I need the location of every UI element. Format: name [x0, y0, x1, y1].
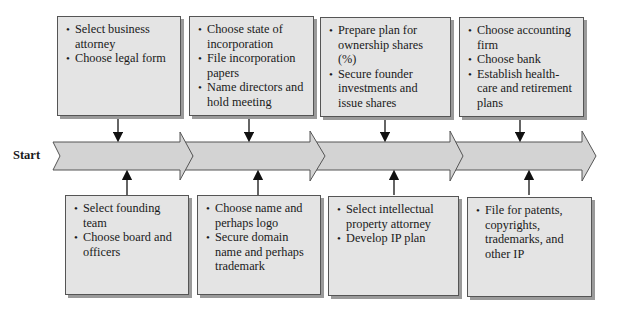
task-item: Secure founder investments and issue sha…	[329, 67, 444, 111]
stage-3-top-box: Prepare plan for ownership shares (%) Se…	[320, 17, 451, 117]
task-item: Select founding team	[74, 201, 182, 230]
stage-2-top-box: Choose state of incorporation File incor…	[189, 16, 314, 116]
task-item: Prepare plan for ownership shares (%)	[329, 23, 444, 67]
stage-1-bottom-box: Select founding team Choose board and of…	[65, 195, 189, 295]
task-item: Develop IP plan	[337, 231, 452, 246]
task-item: File incorporation papers	[198, 51, 307, 80]
stage-4-bottom-box: File for patents, copyrights, trademarks…	[467, 197, 592, 297]
task-item: Secure domain name and perhaps trademark	[206, 230, 314, 274]
stage-1-top-box: Select business attorney Choose legal fo…	[57, 16, 181, 116]
task-item: Choose name and perhaps logo	[206, 201, 314, 230]
start-label: Start	[13, 148, 40, 163]
task-item: Establish health-care and retirement pla…	[468, 67, 577, 111]
task-item: File for patents, copyrights, trademarks…	[476, 203, 585, 261]
task-item: Choose board and officers	[74, 230, 182, 259]
chevron-arrow-3	[310, 131, 463, 181]
task-item: Choose legal form	[66, 51, 174, 66]
task-item: Name directors and hold meeting	[198, 80, 307, 109]
chevron-arrow-2	[180, 131, 325, 181]
chevron-arrow-1	[53, 132, 193, 180]
task-item: Select intellectual property attorney	[337, 202, 452, 231]
task-item: Select business attorney	[66, 22, 174, 51]
stage-3-bottom-box: Select intellectual property attorney De…	[328, 196, 459, 296]
task-item: Choose accounting firm	[468, 23, 577, 52]
stage-4-top-box: Choose accounting firm Choose bank Estab…	[459, 17, 584, 117]
task-item: Choose bank	[468, 52, 577, 67]
task-item: Choose state of incorporation	[198, 22, 307, 51]
chevron-arrow-4	[450, 131, 596, 181]
stage-2-bottom-box: Choose name and perhaps logo Secure doma…	[197, 195, 321, 295]
